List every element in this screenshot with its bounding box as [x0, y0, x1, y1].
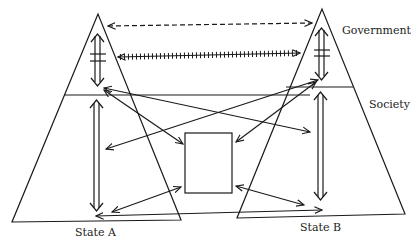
- state-a-label: State A: [75, 226, 116, 239]
- state-a-society-double-arrow: [90, 100, 103, 211]
- hatched-government-arrow: [118, 53, 300, 57]
- cross-arrow-b-gov-to-a-society: [106, 80, 318, 149]
- arrow-a-society-to-box: [112, 187, 181, 212]
- arrow-a-gov-to-box: [104, 90, 183, 144]
- state-b-society-double-arrow: [314, 92, 327, 200]
- arrow-a-society-to-b-society: [96, 210, 322, 216]
- dashed-government-arrow: [108, 23, 312, 26]
- society-label: Society: [369, 98, 410, 111]
- intermediary-box: [185, 133, 232, 193]
- state-a-government-double-arrow: [90, 34, 106, 86]
- state-b-label: State B: [300, 221, 341, 234]
- state-a-triangle: [12, 14, 310, 222]
- state-b-government-double-arrow: [314, 28, 330, 80]
- state-b-triangle: [237, 9, 405, 218]
- arrow-b-gov-to-box: [236, 82, 316, 142]
- government-label: Government: [342, 24, 411, 37]
